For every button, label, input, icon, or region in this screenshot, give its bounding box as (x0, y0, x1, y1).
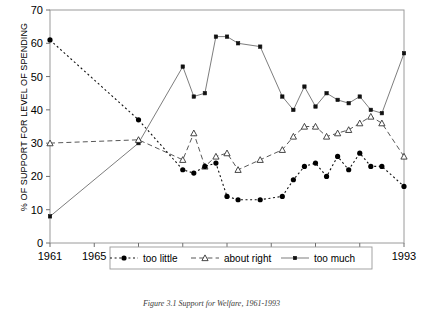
data-point-too-little (202, 164, 207, 169)
data-point-about-right (379, 120, 385, 126)
figure-container: % OF SUPPORT FOR LEVEL OF SPENDING 01020… (0, 0, 423, 313)
data-point-too-much (369, 108, 372, 111)
x-tick-label: 1965 (82, 250, 106, 262)
data-point-too-much (236, 42, 239, 45)
series-about-right-line (50, 117, 404, 170)
figure-caption: Figure 3.1 Support for Welfare, 1961-199… (0, 299, 423, 308)
series-too-little-line (50, 40, 404, 200)
data-point-too-little (291, 177, 296, 182)
y-tick-label: 40 (31, 104, 43, 116)
data-point-too-little (213, 161, 218, 166)
data-point-too-little (302, 164, 307, 169)
series-too-much-line (50, 37, 404, 217)
y-tick-label: 20 (31, 170, 43, 182)
x-tick-label: 1993 (392, 250, 416, 262)
data-point-too-much (336, 98, 339, 101)
data-point-too-little (136, 117, 141, 122)
data-point-too-little (47, 37, 52, 42)
legend-label-1: about right (224, 253, 271, 264)
data-point-about-right (235, 167, 241, 173)
data-point-too-much (281, 95, 284, 98)
data-point-too-much (203, 92, 206, 95)
data-point-too-little (121, 255, 126, 260)
data-point-too-much (181, 65, 184, 68)
data-point-too-much (293, 256, 296, 259)
x-tick-label: 1961 (38, 250, 62, 262)
data-point-too-much (358, 95, 361, 98)
data-point-too-much (214, 35, 217, 38)
chart-legend: too littleabout righttoo much (110, 247, 372, 269)
series-too-little (47, 37, 406, 202)
plot-frame (50, 10, 404, 243)
data-point-too-little (191, 171, 196, 176)
y-tick-label: 30 (31, 137, 43, 149)
y-tick-label: 50 (31, 71, 43, 83)
data-point-about-right (180, 157, 186, 163)
data-point-about-right (335, 130, 341, 136)
data-point-too-little (379, 164, 384, 169)
data-point-about-right (257, 157, 263, 163)
data-point-about-right (224, 150, 230, 156)
data-point-too-little (258, 197, 263, 202)
line-chart: 0102030405060701961196519691973197719811… (0, 0, 423, 313)
data-point-too-little (324, 174, 329, 179)
data-point-too-little (346, 167, 351, 172)
data-point-too-much (380, 111, 383, 114)
data-point-too-little (401, 184, 406, 189)
data-point-too-much (314, 105, 317, 108)
y-tick-label: 60 (31, 37, 43, 49)
data-point-about-right (357, 120, 363, 126)
data-point-too-much (292, 108, 295, 111)
data-point-too-much (258, 45, 261, 48)
data-point-too-little (280, 194, 285, 199)
data-point-too-little (357, 151, 362, 156)
data-point-too-little (335, 154, 340, 159)
data-point-too-little (235, 197, 240, 202)
series-too-much (48, 35, 405, 218)
data-point-too-little (180, 167, 185, 172)
data-point-too-little (368, 164, 373, 169)
y-tick-label: 10 (31, 204, 43, 216)
data-point-too-much (347, 102, 350, 105)
data-point-too-much (225, 35, 228, 38)
data-point-too-little (224, 194, 229, 199)
series-about-right (47, 113, 407, 172)
legend-label-2: too much (314, 253, 355, 264)
y-tick-label: 0 (37, 237, 43, 249)
data-point-too-much (303, 85, 306, 88)
data-point-about-right (368, 113, 374, 119)
data-point-too-much (402, 52, 405, 55)
legend-label-0: too little (143, 253, 178, 264)
y-tick-label: 70 (31, 4, 43, 16)
data-point-too-much (325, 92, 328, 95)
data-point-too-much (192, 95, 195, 98)
data-point-too-much (48, 215, 51, 218)
data-point-about-right (346, 127, 352, 133)
data-point-about-right (401, 153, 407, 159)
data-point-too-little (313, 161, 318, 166)
data-point-about-right (191, 130, 197, 136)
